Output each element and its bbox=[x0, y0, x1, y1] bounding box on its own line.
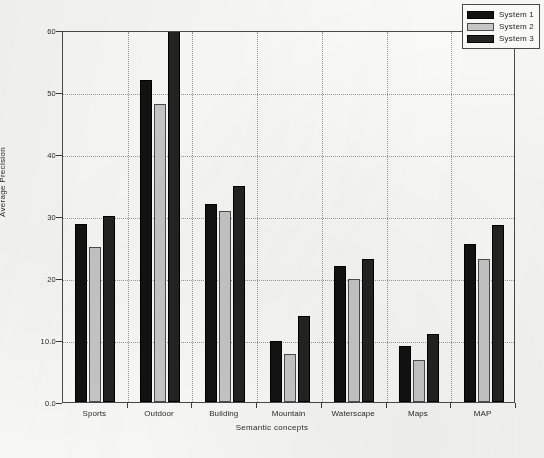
gridline-vertical bbox=[451, 32, 452, 402]
x-tick-label-waterscape: Waterscape bbox=[332, 409, 375, 418]
x-tick-label-map: MAP bbox=[474, 409, 492, 418]
bar bbox=[205, 204, 217, 402]
x-tick-mark bbox=[515, 403, 516, 408]
legend-item: System 1 bbox=[467, 9, 534, 20]
legend-swatch-icon bbox=[467, 11, 494, 19]
y-tick-label: 10.0 bbox=[41, 337, 56, 346]
legend-label: System 3 bbox=[499, 34, 534, 43]
y-tick-label: 0.0 bbox=[45, 399, 56, 408]
gridline-horizontal bbox=[63, 218, 514, 219]
gridline-vertical bbox=[387, 32, 388, 402]
gridline-horizontal bbox=[63, 156, 514, 157]
bar bbox=[399, 346, 411, 402]
x-tick-mark bbox=[321, 403, 322, 408]
x-tick-mark bbox=[450, 403, 451, 408]
y-tick-mark bbox=[56, 403, 62, 404]
bar bbox=[75, 224, 87, 402]
gridline-vertical bbox=[322, 32, 323, 402]
y-tick-label: 20 bbox=[47, 275, 56, 284]
legend-item: System 3 bbox=[467, 33, 534, 44]
bar bbox=[348, 279, 360, 402]
x-tick-mark bbox=[386, 403, 387, 408]
bar bbox=[334, 266, 346, 402]
x-tick-mark bbox=[256, 403, 257, 408]
y-tick-label: 60 bbox=[47, 27, 56, 36]
bar bbox=[140, 80, 152, 402]
legend-label: System 1 bbox=[499, 10, 534, 19]
x-tick-label-maps: Maps bbox=[408, 409, 428, 418]
x-tick-mark bbox=[127, 403, 128, 408]
gridline-horizontal bbox=[63, 94, 514, 95]
bar bbox=[270, 341, 282, 402]
bar bbox=[284, 354, 296, 402]
bar bbox=[233, 186, 245, 402]
plot-area bbox=[62, 31, 515, 403]
bar bbox=[478, 259, 490, 402]
x-tick-label-mountain: Mountain bbox=[272, 409, 306, 418]
x-tick-label-outdoor: Outdoor bbox=[144, 409, 174, 418]
y-tick-label: 40 bbox=[47, 151, 56, 160]
bar bbox=[154, 104, 166, 402]
legend-item: System 2 bbox=[467, 21, 534, 32]
x-tick-label-building: Building bbox=[209, 409, 238, 418]
bar bbox=[298, 316, 310, 402]
gridline-vertical bbox=[192, 32, 193, 402]
legend: System 1System 2System 3 bbox=[462, 4, 540, 49]
x-tick-mark bbox=[191, 403, 192, 408]
gridline-horizontal bbox=[63, 280, 514, 281]
legend-label: System 2 bbox=[499, 22, 534, 31]
y-axis-title: Average Precision bbox=[0, 147, 7, 217]
bar bbox=[103, 216, 115, 402]
gridline-horizontal bbox=[63, 342, 514, 343]
bar bbox=[362, 259, 374, 402]
bar bbox=[219, 211, 231, 402]
legend-swatch-icon bbox=[467, 35, 494, 43]
bar bbox=[492, 225, 504, 402]
y-tick-label: 30 bbox=[47, 213, 56, 222]
gridline-vertical bbox=[128, 32, 129, 402]
legend-swatch-icon bbox=[467, 23, 494, 31]
gridline-vertical bbox=[257, 32, 258, 402]
x-tick-label-sports: Sports bbox=[82, 409, 106, 418]
bar bbox=[427, 334, 439, 402]
bar bbox=[464, 244, 476, 402]
y-tick-label: 50 bbox=[47, 89, 56, 98]
bar bbox=[413, 360, 425, 402]
figure: Average Precision Semantic concepts 0.01… bbox=[0, 0, 544, 458]
x-axis-title: Semantic concepts bbox=[0, 423, 544, 432]
bar bbox=[168, 31, 180, 402]
bar bbox=[89, 247, 101, 402]
